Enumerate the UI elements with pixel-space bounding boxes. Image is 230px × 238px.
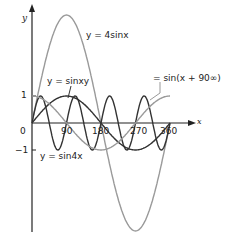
x-axis-arrow-icon <box>188 120 196 126</box>
y-axis-label: y <box>22 14 27 23</box>
x-tick-270: 270 <box>130 127 147 136</box>
annotation-sinx: y = sinxy <box>47 77 89 86</box>
annotation-sin4x: y = sin4x <box>40 152 83 161</box>
x-axis-label: x <box>197 118 202 126</box>
y-tick-m1-label: −1 <box>15 146 28 155</box>
annotation-4sinx: y = 4sinx <box>86 31 129 40</box>
x-tick-90: 90 <box>61 127 72 136</box>
y-tick-1-label: 1 <box>21 91 27 100</box>
y-axis-arrow-icon <box>29 4 35 12</box>
origin-label: 0 <box>20 127 26 136</box>
x-tick-360: 360 <box>160 127 177 136</box>
annotation-phase: = sin(x + 90∞) <box>153 74 221 83</box>
x-tick-180: 180 <box>92 127 109 136</box>
